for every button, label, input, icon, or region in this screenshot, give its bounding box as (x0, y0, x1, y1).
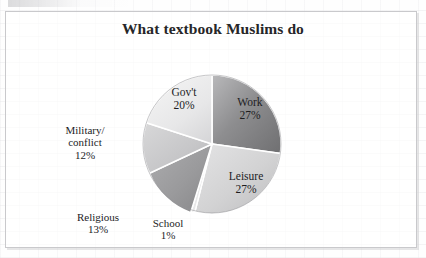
chart-title: What textbook Muslims do (0, 20, 426, 38)
pie-label-govt: Gov't 20% (158, 86, 210, 112)
pie-label-religious: Religious 13% (62, 211, 134, 236)
pie-label-school-name: School (153, 217, 184, 229)
pie-label-work-name: Work (237, 96, 262, 108)
pie-label-leisure-name: Leisure (229, 170, 263, 182)
pie-label-military: Military/ conflict 12% (48, 124, 122, 161)
pie-label-school: School 1% (144, 217, 192, 242)
pie-label-govt-value: 20% (158, 99, 210, 112)
pie-label-military-value: 12% (48, 149, 122, 161)
chart-page: What textbook Muslims do (0, 0, 426, 258)
scan-artifact-top (8, 0, 128, 7)
pie-label-military-name-line1: Military/ (65, 124, 104, 136)
pie-label-leisure-value: 27% (216, 183, 276, 196)
pie-label-school-value: 1% (144, 229, 192, 241)
pie-label-religious-value: 13% (62, 223, 134, 235)
pie-label-religious-name: Religious (77, 211, 119, 223)
pie-label-work: Work 27% (222, 96, 278, 122)
pie-label-leisure: Leisure 27% (216, 170, 276, 196)
pie-label-work-value: 27% (222, 109, 278, 122)
pie-label-govt-name: Gov't (171, 86, 196, 98)
pie-label-military-name-line2: conflict (48, 136, 122, 148)
